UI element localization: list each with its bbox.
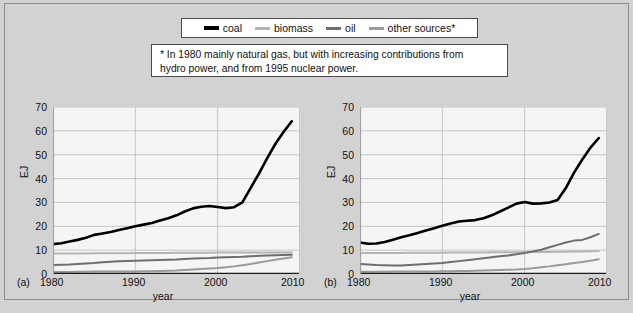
y-tick-a-10: 10 <box>21 245 47 255</box>
x-tick-a-2010: 2010 <box>281 277 304 287</box>
footnote-line-2: hydro power, and from 1995 nuclear power… <box>160 62 499 76</box>
plot-area-b <box>360 107 607 274</box>
legend-label-oil: oil <box>345 23 356 34</box>
x-tick-b-2000: 2000 <box>511 277 534 287</box>
figure-page: coal biomass oil other sources* * In 198… <box>0 0 633 313</box>
y-tick-a-50: 50 <box>21 150 47 160</box>
legend-entry-coal: coal <box>204 23 242 34</box>
x-tick-b-1980: 1980 <box>347 277 370 287</box>
y-tick-b-70: 70 <box>328 102 354 112</box>
y-tick-b-50: 50 <box>328 150 354 160</box>
plot-svg-b <box>360 107 607 274</box>
legend-label-other-sources: other sources* <box>388 23 456 34</box>
x-tick-a-1980: 1980 <box>40 277 63 287</box>
y-tick-b-10: 10 <box>328 245 354 255</box>
plot-area-a <box>53 107 300 274</box>
x-tick-a-2000: 2000 <box>204 277 227 287</box>
y-tick-a-20: 20 <box>21 221 47 231</box>
chart-legend: coal biomass oil other sources* <box>181 18 478 38</box>
legend-entry-biomass: biomass <box>255 23 313 34</box>
x-axis-label-a: year <box>13 290 313 302</box>
y-tick-a-40: 40 <box>21 174 47 184</box>
footnote-box: * In 1980 mainly natural gas, but with i… <box>151 44 508 77</box>
footnote-line-1: * In 1980 mainly natural gas, but with i… <box>160 48 499 62</box>
legend-entry-other-sources: other sources* <box>369 23 456 34</box>
y-tick-a-30: 30 <box>21 197 47 207</box>
y-tick-b-30: 30 <box>328 197 354 207</box>
chart-panel-b: (b) EJ year 0 10 20 30 40 50 60 70 1980 … <box>320 100 620 300</box>
chart-panel-a: (a) EJ year 0 10 20 30 40 50 60 70 1980 … <box>13 100 313 300</box>
x-tick-a-1990: 1990 <box>122 277 145 287</box>
legend-swatch-other-sources <box>369 27 384 30</box>
legend-label-coal: coal <box>223 23 242 34</box>
legend-swatch-oil <box>326 27 341 30</box>
figure-frame: coal biomass oil other sources* * In 198… <box>4 3 629 300</box>
x-tick-b-1990: 1990 <box>429 277 452 287</box>
y-tick-b-40: 40 <box>328 174 354 184</box>
y-tick-b-20: 20 <box>328 221 354 231</box>
plot-svg-a <box>53 107 300 274</box>
legend-swatch-biomass <box>255 27 270 30</box>
y-tick-a-70: 70 <box>21 102 47 112</box>
y-tick-b-60: 60 <box>328 126 354 136</box>
x-axis-label-b: year <box>320 290 620 302</box>
x-tick-b-2010: 2010 <box>588 277 611 287</box>
legend-label-biomass: biomass <box>274 23 313 34</box>
legend-entry-oil: oil <box>326 23 356 34</box>
y-tick-a-60: 60 <box>21 126 47 136</box>
legend-swatch-coal <box>204 26 219 29</box>
